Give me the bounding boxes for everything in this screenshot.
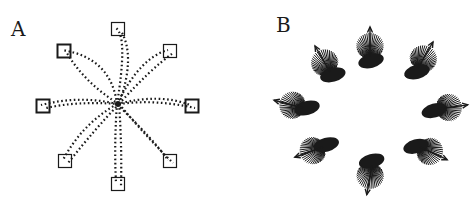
- population-vector-cluster: [403, 42, 437, 82]
- panel-a-label: A: [10, 17, 26, 41]
- population-vector-cluster: [274, 92, 321, 119]
- trajectory-path: [63, 104, 117, 160]
- population-vector-cluster: [295, 135, 341, 165]
- target-square: [164, 45, 177, 58]
- population-vector-cluster: [357, 27, 386, 71]
- panel-b-population-vectors: [274, 27, 468, 195]
- population-vector-cluster: [402, 136, 447, 165]
- trajectory-path: [117, 104, 168, 160]
- panel-b-label: B: [276, 13, 291, 37]
- target-square: [112, 178, 125, 191]
- trajectory-path: [117, 50, 168, 104]
- population-vector-cluster: [420, 94, 468, 121]
- center-start-point: [115, 101, 121, 107]
- target-square: [37, 100, 50, 113]
- trajectory-path: [116, 28, 122, 104]
- target-square: [58, 45, 71, 58]
- population-vector-cluster: [311, 46, 347, 85]
- panel-a-trajectories: [37, 23, 199, 191]
- trajectory-path: [68, 104, 119, 163]
- trajectory-path: [119, 104, 121, 186]
- figure-canvas: A B: [0, 0, 475, 210]
- target-square: [59, 155, 72, 168]
- trajectory-path: [115, 104, 117, 183]
- population-vector-cluster: [357, 151, 386, 195]
- trajectory-path: [46, 103, 119, 108]
